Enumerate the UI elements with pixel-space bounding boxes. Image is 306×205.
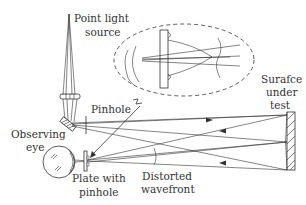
label-eye-1: Observing [11,128,66,140]
label-wavefront-2: wavefront [141,183,195,195]
ray-arrows [206,118,226,166]
label-eye-2: eye [26,141,44,153]
label-surface-2: under [266,86,298,98]
label-light-source-2: source [85,26,121,38]
label-plate-1: Plate with [72,172,126,184]
label-surface-3: test [270,99,291,111]
distorted-wavefront-curve [154,148,156,165]
surface-under-test-icon [286,112,296,170]
label-light-source-1: Point light [74,12,130,24]
label-surface-1: Surafce [261,73,302,85]
magnified-inset [114,24,254,96]
label-pinhole: Pinhole [91,103,131,115]
returning-rays [88,115,287,170]
light-source-cone [63,14,75,95]
label-plate-2: pinhole [79,186,119,198]
optical-diagram: Point light source Pinhole Observing eye… [0,0,306,205]
label-wavefront-1: Distorted [142,170,192,182]
